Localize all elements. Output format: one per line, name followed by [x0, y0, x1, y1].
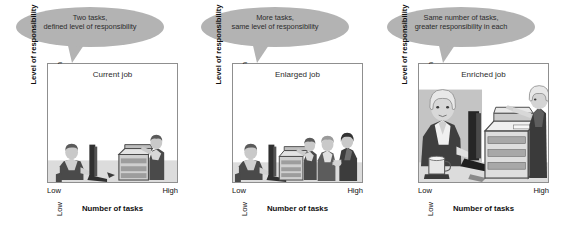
panel-title-current-job: Current job: [48, 70, 177, 79]
callout-line-1: Two tasks,: [22, 13, 158, 22]
panel-title-enlarged-job: Enlarged job: [233, 70, 362, 79]
panel-current-job: Two tasks, defined level of responsibili…: [0, 0, 190, 231]
x-axis-low-enriched-job: Low: [418, 186, 432, 195]
job-design-diagram: Two tasks, defined level of responsibili…: [0, 0, 568, 231]
callout-line-2: same level of responsibility: [207, 22, 343, 31]
callout-text-enriched-job: Same number of tasks, greater responsibi…: [393, 13, 529, 32]
plot-frame-enriched-job: Enriched job: [418, 63, 549, 183]
callout-line-2: greater responsibility in each: [393, 22, 529, 31]
panel-enriched-job: Same number of tasks, greater responsibi…: [371, 0, 561, 231]
x-axis-low-enlarged-job: Low: [232, 186, 246, 195]
illustration-enriched-job: [419, 64, 548, 182]
callout-text-enlarged-job: More tasks, same level of responsibility: [207, 13, 343, 32]
y-axis-title-enlarged-job: Level of responsibility: [214, 0, 223, 105]
callout-line-1: Same number of tasks,: [393, 13, 529, 22]
x-axis-high-current-job: High: [150, 186, 178, 195]
plot-frame-current-job: Current job: [47, 63, 178, 183]
x-axis-title-current-job: Number of tasks: [37, 204, 188, 213]
panel-title-enriched-job: Enriched job: [419, 70, 548, 79]
callout-line-1: More tasks,: [207, 13, 343, 22]
callout-line-2: defined level of responsibility: [22, 22, 158, 31]
x-axis-title-enlarged-job: Number of tasks: [222, 204, 373, 213]
x-axis-title-enriched-job: Number of tasks: [408, 204, 559, 213]
illustration-enlarged-job: [233, 64, 362, 182]
callout-text-current-job: Two tasks, defined level of responsibili…: [22, 13, 158, 32]
panel-enlarged-job: More tasks, same level of responsibility…: [185, 0, 375, 231]
x-axis-low-current-job: Low: [47, 186, 61, 195]
y-axis-title-current-job: Level of responsibility: [29, 0, 38, 105]
x-axis-high-enriched-job: High: [521, 186, 549, 195]
x-axis-high-enlarged-job: High: [335, 186, 363, 195]
illustration-current-job: [48, 64, 177, 182]
y-axis-title-enriched-job: Level of responsibility: [400, 0, 409, 105]
plot-frame-enlarged-job: Enlarged job: [232, 63, 363, 183]
